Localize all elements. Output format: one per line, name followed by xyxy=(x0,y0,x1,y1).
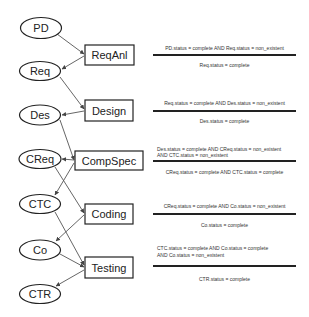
place-label: Req xyxy=(30,65,50,77)
arc-co-testing xyxy=(60,254,84,267)
rule-postcondition: CTR.status = complete xyxy=(153,276,296,282)
place-co[interactable]: Co xyxy=(20,240,61,260)
arc-compspec-creq xyxy=(62,159,74,160)
place-des[interactable]: Des xyxy=(20,105,61,125)
transition-testing[interactable]: Testing xyxy=(85,257,133,278)
transition-label: CompSpec xyxy=(82,155,137,167)
transition-label: Coding xyxy=(92,208,127,220)
transition-label: ReqAnl xyxy=(91,49,127,61)
rule-postcondition: CReq.status = complete AND CTC.status = … xyxy=(153,169,296,175)
place-label: CTR xyxy=(29,288,52,300)
place-req[interactable]: Req xyxy=(20,62,61,81)
arc-coding-co xyxy=(56,215,84,241)
transition-label: Design xyxy=(92,105,126,117)
arc-compspec-ctc xyxy=(55,163,74,195)
rule-divider xyxy=(153,265,296,267)
place-label: CReq xyxy=(26,153,54,165)
arc-des-compspec xyxy=(60,120,74,160)
place-ctc[interactable]: CTC xyxy=(20,195,61,214)
rule-precondition: CReq.status = complete AND Co.status = n… xyxy=(153,203,296,209)
rule-divider xyxy=(153,54,296,56)
transition-reqanl[interactable]: ReqAnl xyxy=(85,45,134,65)
place-label: Co xyxy=(33,244,47,256)
transition-coding[interactable]: Coding xyxy=(85,204,133,224)
rule-postcondition: Des.status = complete xyxy=(153,118,296,124)
transition-design[interactable]: Design xyxy=(85,100,133,121)
arc-reqanl-req xyxy=(62,56,84,69)
rule-divider xyxy=(153,160,296,162)
arc-pd-reqanl xyxy=(57,34,84,54)
rule-precondition-line2: AND Co.status = non_existent xyxy=(157,252,300,258)
arc-testing-ctr xyxy=(56,270,84,286)
place-label: Des xyxy=(30,109,50,121)
rule-divider xyxy=(153,213,296,215)
rule-postcondition: Co.status = complete xyxy=(153,222,296,228)
place-creq[interactable]: CReq xyxy=(19,150,61,169)
rule-postcondition: Req.status = complete xyxy=(153,62,296,68)
rule-precondition: PD.status = complete AND Req.status = no… xyxy=(153,45,296,51)
place-label: PD xyxy=(33,22,48,34)
place-ctr[interactable]: CTR xyxy=(20,285,61,304)
place-label: CTC xyxy=(29,198,52,210)
place-pd[interactable]: PD xyxy=(21,18,62,39)
transition-compspec[interactable]: CompSpec xyxy=(75,151,143,170)
arc-design-des xyxy=(62,111,84,115)
transition-label: Testing xyxy=(92,262,127,274)
rule-divider xyxy=(153,110,296,112)
rule-precondition: Req.status = complete AND Des.status = n… xyxy=(153,100,296,106)
rule-precondition-line2: AND CTC.status = non_existent xyxy=(157,152,300,158)
arc-req-design xyxy=(60,77,84,109)
rule-precondition: CTC.status = complete AND Co.status = co… xyxy=(157,245,300,251)
